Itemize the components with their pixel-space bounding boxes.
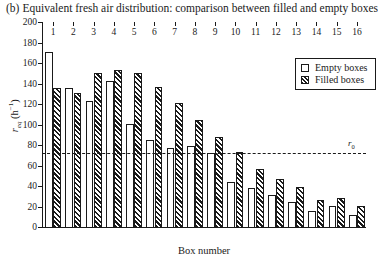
bar-filled-box-11	[256, 169, 264, 228]
y-tick-mark	[38, 125, 42, 126]
x-tick-mark	[94, 22, 95, 26]
bar-empty-box-14	[308, 211, 316, 228]
y-tick-label: 140	[23, 79, 37, 89]
threshold-line	[42, 153, 366, 154]
bar-filled-box-16	[357, 206, 365, 228]
y-tick-mark	[38, 145, 42, 146]
threshold-label: r0	[348, 139, 355, 151]
y-tick-label: 180	[23, 38, 37, 48]
y-tick-label: 160	[23, 59, 37, 69]
filled-box-swatch-icon	[301, 76, 309, 84]
bar-empty-box-9	[207, 153, 215, 228]
bar-filled-box-14	[317, 200, 325, 228]
y-tick-label: 120	[23, 100, 37, 110]
legend-item-empty: Empty boxes	[301, 62, 368, 74]
x-tick-label: 6	[152, 27, 157, 37]
bar-empty-box-2	[65, 88, 73, 228]
y-tick-mark	[38, 22, 42, 23]
y-tick-mark	[38, 207, 42, 208]
x-tick-label: 15	[332, 27, 342, 37]
x-tick-mark	[296, 22, 297, 26]
x-tick-mark	[256, 22, 257, 26]
x-tick-label: 1	[51, 27, 56, 37]
x-tick-mark	[114, 22, 115, 26]
bar-filled-box-5	[134, 73, 142, 228]
legend-box: Empty boxes Filled boxes	[295, 58, 376, 90]
x-tick-mark	[235, 22, 236, 26]
y-tick-label: 80	[28, 141, 38, 151]
empty-box-swatch-icon	[301, 64, 309, 72]
x-tick-label: 5	[132, 27, 137, 37]
x-tick-mark	[134, 22, 135, 26]
bar-filled-box-10	[236, 152, 244, 228]
y-tick-mark	[38, 186, 42, 187]
figure-caption: (b) Equivalent fresh air distribution: c…	[0, 2, 378, 18]
bar-filled-box-15	[337, 198, 345, 228]
y-tick-label: 20	[28, 202, 38, 212]
x-tick-label: 9	[213, 27, 218, 37]
x-tick-mark	[215, 22, 216, 26]
y-tick-label: 200	[23, 18, 37, 28]
x-tick-label: 11	[251, 27, 260, 37]
y-tick-mark	[38, 227, 42, 228]
x-tick-label: 16	[352, 27, 362, 37]
y-axis-title: req (h−1)	[7, 73, 23, 159]
x-tick-mark	[154, 22, 155, 26]
plot-area: 020406080100120140160180200 r0 123456789…	[42, 22, 366, 228]
x-tick-label: 4	[112, 27, 117, 37]
bar-empty-box-16	[349, 215, 357, 228]
figure-panel: (b) Equivalent fresh air distribution: c…	[0, 0, 378, 269]
x-tick-label: 7	[172, 27, 177, 37]
x-tick-mark	[276, 22, 277, 26]
bar-empty-box-5	[126, 124, 134, 228]
bar-filled-box-3	[94, 73, 102, 228]
bar-empty-box-4	[106, 81, 114, 228]
bar-filled-box-8	[195, 120, 203, 228]
bar-empty-box-11	[248, 188, 256, 228]
legend-label-empty: Empty boxes	[315, 63, 368, 73]
bar-filled-box-2	[74, 93, 82, 228]
bar-filled-box-4	[114, 70, 122, 228]
x-tick-label: 2	[71, 27, 76, 37]
bar-filled-box-1	[53, 88, 61, 228]
bar-empty-box-12	[268, 195, 276, 228]
bar-empty-box-3	[86, 101, 94, 228]
bar-filled-box-7	[175, 103, 183, 228]
bar-filled-box-6	[155, 87, 163, 228]
bar-empty-box-8	[187, 146, 195, 228]
x-tick-label: 3	[91, 27, 96, 37]
bar-empty-box-10	[227, 182, 235, 228]
y-tick-mark	[38, 63, 42, 64]
x-tick-label: 12	[271, 27, 281, 37]
x-tick-mark	[337, 22, 338, 26]
bar-empty-box-1	[45, 52, 53, 228]
x-tick-mark	[316, 22, 317, 26]
bar-filled-box-12	[276, 179, 284, 228]
bar-empty-box-15	[329, 206, 337, 228]
x-tick-mark	[73, 22, 74, 26]
y-tick-label: 40	[28, 182, 38, 192]
caption-title: Equivalent fresh air distribution: compa…	[23, 2, 378, 15]
x-tick-mark	[175, 22, 176, 26]
x-tick-label: 10	[231, 27, 241, 37]
y-tick-label: 0	[32, 223, 37, 233]
bar-empty-box-13	[288, 202, 296, 228]
y-tick-mark	[38, 43, 42, 44]
bar-filled-box-13	[296, 187, 304, 228]
x-tick-mark	[195, 22, 196, 26]
caption-tag: (b)	[6, 2, 21, 15]
x-tick-mark	[53, 22, 54, 26]
x-tick-mark	[357, 22, 358, 26]
bar-empty-box-7	[167, 148, 175, 228]
x-tick-label: 14	[312, 27, 322, 37]
y-tick-label: 60	[28, 161, 38, 171]
y-axis-line	[42, 22, 43, 228]
x-tick-label: 13	[291, 27, 301, 37]
y-tick-mark	[38, 104, 42, 105]
x-axis-title: Box number	[42, 245, 366, 256]
y-tick-mark	[38, 166, 42, 167]
bar-filled-box-9	[215, 137, 223, 228]
y-tick-label: 100	[23, 120, 37, 130]
legend-label-filled: Filled boxes	[315, 75, 364, 85]
x-tick-label: 8	[193, 27, 198, 37]
